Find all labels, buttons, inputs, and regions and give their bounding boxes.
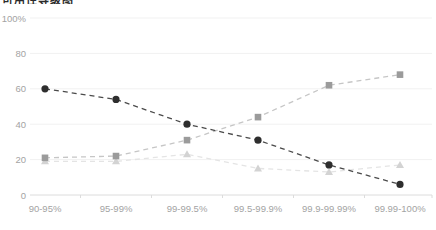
series-circle — [41, 85, 403, 188]
series-square — [42, 71, 404, 161]
x-tick-label: 99.99-100% — [374, 203, 426, 214]
square-marker — [326, 82, 333, 89]
square-marker — [184, 137, 191, 144]
circle-marker — [254, 137, 261, 144]
clipped-page-title: 可用性等级图 — [2, 0, 142, 4]
square-marker — [397, 71, 404, 78]
x-axis-labels: 90-95%95-99%99-99.5%99.5-99.9%99.9-99.99… — [29, 203, 427, 214]
x-tick-label: 95-99% — [100, 203, 133, 214]
y-tick-label: 20 — [15, 154, 26, 165]
x-tick-label: 99.9-99.99% — [302, 203, 356, 214]
square-marker — [255, 114, 262, 121]
availability-chart: 020406080100%90-95%95-99%99-99.5%99.5-99… — [0, 0, 436, 230]
triangle-marker — [183, 150, 191, 157]
square-marker — [42, 155, 49, 162]
gridlines — [30, 18, 432, 160]
triangle-marker — [396, 161, 404, 168]
y-tick-label: 80 — [15, 48, 26, 59]
square-marker — [113, 153, 120, 160]
y-tick-label: 0 — [21, 190, 26, 201]
y-tick-label: 60 — [15, 83, 26, 94]
x-axis-line — [30, 195, 432, 198]
y-axis-labels: 020406080100% — [2, 13, 27, 201]
clipped-page-title-text: 可用性等级图 — [2, 0, 142, 4]
chart-svg: 020406080100%90-95%95-99%99-99.5%99.5-99… — [0, 0, 436, 230]
circle-marker — [41, 85, 48, 92]
series-triangle — [41, 150, 404, 175]
y-tick-label: 40 — [15, 119, 26, 130]
x-tick-label: 99-99.5% — [167, 203, 208, 214]
x-tick-label: 99.5-99.9% — [234, 203, 283, 214]
circle-marker — [396, 181, 403, 188]
circle-marker — [325, 161, 332, 168]
x-tick-label: 90-95% — [29, 203, 62, 214]
circle-marker — [112, 96, 119, 103]
y-tick-label: 100% — [2, 13, 27, 24]
circle-marker — [183, 121, 190, 128]
